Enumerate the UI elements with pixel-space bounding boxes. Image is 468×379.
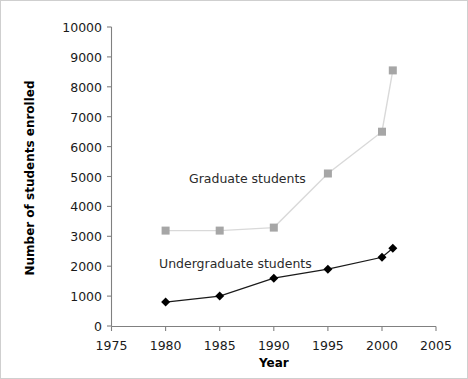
undergraduate-series-label: Undergraduate students <box>159 256 312 271</box>
x-tick-label-1985: 1985 <box>204 338 236 353</box>
series-graduate-students <box>162 66 397 234</box>
x-tick-label-2005: 2005 <box>420 338 452 353</box>
graduate-point-1995 <box>324 170 332 178</box>
chart-canvas: 10000 9000 8000 7000 6000 5000 4000 3000… <box>1 1 468 379</box>
enrollment-line-chart: 10000 9000 8000 7000 6000 5000 4000 3000… <box>0 0 468 379</box>
x-tick-label-1990: 1990 <box>258 338 290 353</box>
y-tick-label-8000: 8000 <box>70 80 102 95</box>
graduate-point-1980 <box>162 227 170 235</box>
graduate-point-1985 <box>216 227 224 235</box>
y-tick-label-6000: 6000 <box>70 140 102 155</box>
graduate-point-1990 <box>270 224 278 232</box>
graduate-series-label: Graduate students <box>189 171 306 186</box>
y-tick-label-2000: 2000 <box>70 259 102 274</box>
undergraduate-point-1980 <box>161 298 170 307</box>
y-tick-label-5000: 5000 <box>70 170 102 185</box>
series-undergraduate-students <box>161 244 397 307</box>
undergraduate-point-1995 <box>323 265 332 274</box>
x-tick-label-2000: 2000 <box>366 338 398 353</box>
graduate-point-2000 <box>378 128 386 136</box>
y-tick-label-7000: 7000 <box>70 110 102 125</box>
x-tick-label-1975: 1975 <box>96 338 128 353</box>
y-tick-label-3000: 3000 <box>70 229 102 244</box>
y-tick-label-0: 0 <box>94 319 102 334</box>
graduate-line <box>166 70 393 230</box>
graduate-point-2001 <box>389 66 397 74</box>
x-axis-title: Year <box>258 356 289 370</box>
y-tick-label-9000: 9000 <box>70 50 102 65</box>
x-tick-label-1995: 1995 <box>312 338 344 353</box>
undergraduate-point-1990 <box>269 274 278 283</box>
y-tick-label-10000: 10000 <box>62 20 102 35</box>
y-axis-title: Number of students enrolled <box>23 80 37 275</box>
x-tick-label-1980: 1980 <box>150 338 182 353</box>
undergraduate-point-1985 <box>215 292 224 301</box>
y-tick-label-1000: 1000 <box>70 289 102 304</box>
y-tick-label-4000: 4000 <box>70 199 102 214</box>
